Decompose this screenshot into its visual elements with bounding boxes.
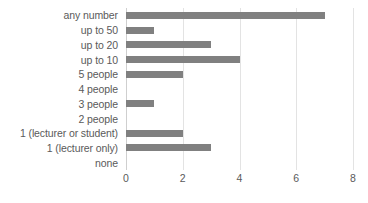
x-axis-tick-labels: 02468 (126, 172, 353, 192)
y-axis-label: none (0, 155, 122, 170)
bar[interactable] (126, 100, 154, 107)
bar-chart: any numberup to 50up to 20up to 105 peop… (0, 0, 368, 203)
plot-area (126, 8, 353, 170)
bar-row (126, 23, 353, 38)
x-axis-tick-label: 2 (180, 172, 186, 184)
bar-row (126, 82, 353, 97)
bar[interactable] (126, 27, 154, 34)
bar-series (126, 8, 353, 170)
bar-row (126, 37, 353, 52)
y-axis-label: up to 50 (0, 23, 122, 38)
bar-row (126, 126, 353, 141)
bar-row (126, 8, 353, 23)
x-axis-tick-label: 0 (123, 172, 129, 184)
y-axis-label: 5 people (0, 67, 122, 82)
y-axis-category-labels: any numberup to 50up to 20up to 105 peop… (0, 8, 122, 170)
y-axis-label: up to 10 (0, 52, 122, 67)
x-axis-tick-label: 4 (237, 172, 243, 184)
bar-row (126, 52, 353, 67)
y-axis-label: up to 20 (0, 37, 122, 52)
y-axis-label: any number (0, 8, 122, 23)
y-axis-label: 1 (lecturer only) (0, 141, 122, 156)
bar[interactable] (126, 56, 240, 63)
x-axis-tick-label: 6 (293, 172, 299, 184)
bar-row (126, 111, 353, 126)
gridline (353, 8, 354, 170)
y-axis-label: 1 (lecturer or student) (0, 126, 122, 141)
bar[interactable] (126, 130, 183, 137)
bar-row (126, 141, 353, 156)
bar[interactable] (126, 41, 211, 48)
y-axis-label: 3 people (0, 96, 122, 111)
bar-row (126, 96, 353, 111)
y-axis-label: 2 people (0, 111, 122, 126)
bar[interactable] (126, 71, 183, 78)
bar[interactable] (126, 144, 211, 151)
x-axis-tick-label: 8 (350, 172, 356, 184)
bar[interactable] (126, 12, 325, 19)
bar-row (126, 155, 353, 170)
y-axis-label: 4 people (0, 82, 122, 97)
bar-row (126, 67, 353, 82)
